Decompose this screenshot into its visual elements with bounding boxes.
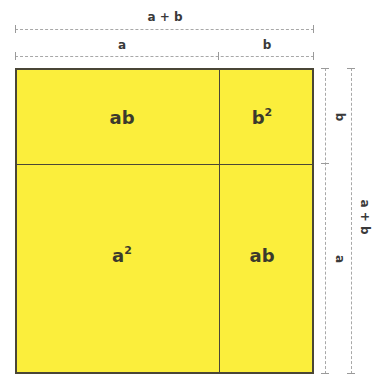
cell-bottom-left-base: a xyxy=(112,245,124,266)
cell-top-right-base: b xyxy=(252,107,265,128)
right-total-dimension-line xyxy=(351,68,352,374)
cell-top-left-label: ab xyxy=(87,107,157,128)
top-total-dimension-line xyxy=(15,29,314,30)
cell-top-right-exponent: 2 xyxy=(265,106,273,119)
top-total-tick-left xyxy=(15,25,16,33)
right-segment-b-label: b xyxy=(333,107,347,127)
top-seg-tick-left xyxy=(15,52,16,60)
top-segments-dimension-line xyxy=(15,56,314,57)
right-seg-tick-bottom xyxy=(321,373,329,374)
right-total-tick-bottom xyxy=(347,373,355,374)
cell-top-left-base: ab xyxy=(109,107,134,128)
cell-top-right-label: b2 xyxy=(232,107,292,128)
top-seg-tick-mid xyxy=(218,52,219,60)
top-seg-tick-right xyxy=(313,52,314,60)
cell-bottom-left-label: a2 xyxy=(87,245,157,266)
right-segment-a-label: a xyxy=(333,249,347,269)
vertical-divider xyxy=(219,70,220,372)
horizontal-divider xyxy=(17,164,312,165)
cell-bottom-right-base: ab xyxy=(249,245,274,266)
top-total-label: a + b xyxy=(140,10,190,24)
cell-bottom-right-label: ab xyxy=(232,245,292,266)
right-seg-tick-top xyxy=(321,68,329,69)
top-segment-b-label: b xyxy=(252,38,282,52)
cell-bottom-left-exponent: 2 xyxy=(124,244,132,257)
right-segments-dimension-line xyxy=(325,68,326,374)
right-total-tick-top xyxy=(347,68,355,69)
top-segment-a-label: a xyxy=(107,38,137,52)
right-seg-tick-mid xyxy=(321,163,329,164)
top-total-tick-right xyxy=(313,25,314,33)
binomial-square: ab b2 a2 ab xyxy=(15,68,314,374)
right-total-label: a + b xyxy=(358,192,372,242)
